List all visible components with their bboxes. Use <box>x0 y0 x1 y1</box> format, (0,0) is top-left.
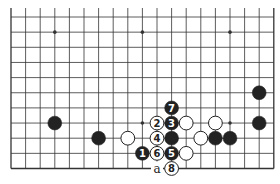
black-stone <box>48 116 62 130</box>
white-stone-icon <box>179 116 193 130</box>
go-board-diagram: a 23741658 <box>0 0 280 184</box>
black-stone-icon <box>48 116 62 130</box>
move-number: 5 <box>168 148 175 159</box>
black-stone-icon <box>92 131 106 145</box>
black-stone-icon <box>252 86 266 100</box>
white-stone <box>121 131 135 145</box>
move-number: 4 <box>154 133 161 144</box>
white-stone-6: 6 <box>150 146 164 160</box>
white-stone-icon <box>209 116 223 130</box>
black-stone-icon <box>223 131 237 145</box>
white-stone <box>209 116 223 130</box>
black-stone <box>223 131 237 145</box>
white-stone-2: 2 <box>150 116 164 130</box>
move-number: 6 <box>154 148 161 159</box>
star-point <box>141 30 145 34</box>
star-point <box>141 121 145 125</box>
white-stone-icon <box>194 131 208 145</box>
white-stone-8: 8 <box>165 162 179 176</box>
white-stone <box>194 131 208 145</box>
white-stone <box>179 146 193 160</box>
star-point <box>228 121 232 125</box>
move-number: 3 <box>168 118 175 129</box>
move-number: 2 <box>154 118 161 129</box>
move-number: 1 <box>139 148 146 159</box>
go-board: a 23741658 <box>0 0 280 184</box>
point-labels: a <box>151 162 163 176</box>
black-stone-5: 5 <box>165 146 179 160</box>
move-number: 8 <box>168 163 175 174</box>
star-point <box>228 30 232 34</box>
white-stone <box>179 116 193 130</box>
point-label-a: a <box>153 162 160 176</box>
white-stone-icon <box>179 146 193 160</box>
white-stone-4: 4 <box>150 131 164 145</box>
black-stone-icon <box>165 131 179 145</box>
black-stone-3: 3 <box>165 116 179 130</box>
black-stone-7: 7 <box>165 101 179 115</box>
black-stone <box>252 116 266 130</box>
black-stone-icon <box>252 116 266 130</box>
black-stone-icon <box>209 131 223 145</box>
black-stone <box>92 131 106 145</box>
black-stone <box>252 86 266 100</box>
black-stone-1: 1 <box>136 146 150 160</box>
white-stone-icon <box>121 131 135 145</box>
black-stone <box>209 131 223 145</box>
black-stone <box>165 131 179 145</box>
star-point <box>53 30 57 34</box>
move-number: 7 <box>168 103 175 114</box>
